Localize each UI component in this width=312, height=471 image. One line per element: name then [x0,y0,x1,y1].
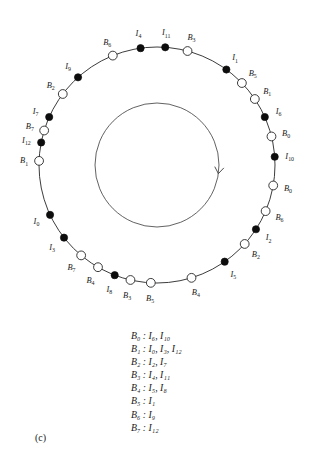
ring-node-label: B2 [252,250,260,260]
ring-node-bucket [58,90,67,99]
ring-node-label: B1 [20,156,28,166]
legend-entry: B₃ : I₄, I₁₁ [131,368,251,381]
ring-node-label: I12 [21,136,31,146]
ring-node-item [74,74,81,81]
ring-node-bucket [146,278,155,287]
ring-node-bucket [237,79,246,88]
ring-node-label: B2 [47,81,55,91]
ring-node-label: I11 [161,28,171,38]
ring-node-item [46,113,53,120]
ring-labels-layer: B1I12B7I7B2I9B6I4I11B3I1B5B1I6B0I10B0B6I… [20,28,294,304]
ring-node-item [221,258,228,265]
ring-node-label: B7 [67,263,75,273]
ring-node-label: B4 [86,276,94,286]
ring-node-bucket [108,51,117,60]
ring-node-item [60,234,67,241]
ring-node-item [137,45,144,52]
legend-entry: B₄ : I₅, I₈ [131,381,251,394]
ring-node-item [162,44,169,51]
ring-node-label: B6 [275,213,283,223]
ring-node-bucket [126,276,135,285]
legend-entry: B₁ : I₀, I₃, I₁₂ [131,342,251,355]
ring-node-bucket [35,156,44,165]
consistent-hashing-ring-diagram: B1I12B7I7B2I9B6I4I11B3I1B5B1I6B0I10B0B6I… [0,0,312,320]
ring-node-bucket [183,47,192,56]
ring-node-label: B1 [263,87,271,97]
ring-node-label: I6 [275,107,282,117]
ring-node-label: B5 [249,69,257,79]
ring-node-label: B3 [123,291,131,301]
ring-node-label: B6 [103,38,111,48]
ring-node-label: I2 [265,233,272,243]
ring-node-label: I4 [135,29,142,39]
ring-node-label: I10 [284,152,294,162]
ring-node-bucket [269,181,278,190]
inner-ring-circle [95,103,219,227]
ring-node-bucket [187,273,196,282]
legend-entry: B₀ : I₆, I₁₀ [131,329,251,342]
ring-node-item [271,153,278,160]
legend-entry: B₆ : I₉ [131,408,251,421]
ring-node-item [223,66,230,73]
ring-node-label: I0 [33,217,40,227]
ring-node-bucket [240,240,249,249]
ring-node-label: I1 [231,53,238,63]
ring-node-bucket [250,95,259,104]
ring-svg: B1I12B7I7B2I9B6I4I11B3I1B5B1I6B0I10B0B6I… [0,0,312,320]
ring-node-label: B3 [187,33,195,43]
ring-node-bucket [77,251,86,260]
ring-node-item [38,139,45,146]
ring-node-item [252,226,259,233]
bucket-legend: B₀ : I₆, I₁₀B₁ : I₀, I₃, I₁₂B₂ : I₂, I₇B… [131,329,251,434]
ring-node-label: I7 [32,107,39,117]
ring-node-bucket [261,207,270,216]
figure-root: B1I12B7I7B2I9B6I4I11B3I1B5B1I6B0I10B0B6I… [0,0,312,471]
ring-node-label: I3 [48,243,55,253]
panel-caption: (c) [35,432,46,443]
ring-node-label: I5 [229,270,236,280]
ring-node-label: B7 [26,122,34,132]
ring-node-label: B4 [192,288,200,298]
ring-node-label: I9 [64,62,71,72]
ring-node-bucket [94,263,103,272]
ring-node-label: B0 [282,129,290,139]
ring-node-item [111,272,118,279]
ring-node-label: B0 [284,184,292,194]
ring-node-bucket [40,126,49,135]
ring-nodes-layer [35,44,279,288]
ring-node-item [46,211,53,218]
ring-node-label: B5 [146,294,154,304]
ring-node-label: I8 [105,285,112,295]
legend-entry: B₂ : I₂, I₇ [131,355,251,368]
legend-entry: B₇ : I₁₂ [131,421,251,434]
legend-entry: B₅ : I₁ [131,394,251,407]
ring-node-item [261,113,268,120]
ring-node-bucket [267,132,276,141]
